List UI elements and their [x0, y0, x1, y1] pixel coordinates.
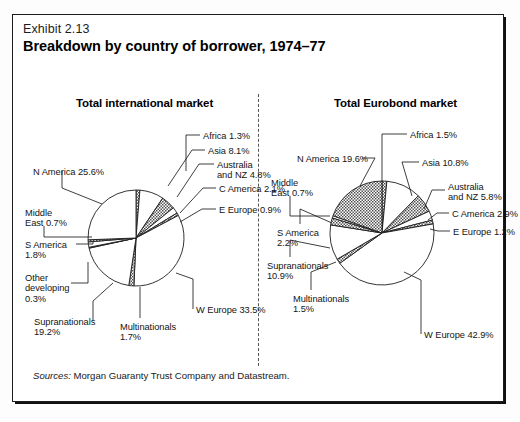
callout-euro-w-europe: W Europe 42.9%	[424, 330, 494, 340]
callout-euro-australia: Australia and NZ 5.8%	[448, 182, 502, 203]
callout-euro-asia: Asia 10.8%	[422, 158, 469, 168]
callout-euro-multinationals: Multinationals 1.5%	[293, 294, 349, 315]
callout-intl-australia: Australia and NZ 4.8%	[217, 160, 271, 181]
leader-line-africa	[382, 134, 407, 182]
callout-euro-c-america: C America 2.9%	[452, 209, 518, 219]
callout-intl-supranationals: Supranationals 19.2%	[34, 317, 95, 338]
callout-intl-w-europe: W Europe 33.5%	[196, 305, 266, 315]
callout-intl-n-america: N America 25.6%	[33, 167, 104, 177]
source-text: Morgan Guaranty Trust Company and Datast…	[71, 370, 290, 381]
callout-intl-e-europe: E Europe 0.9%	[219, 205, 281, 215]
callout-euro-middle-east: Middle East 0.7%	[271, 178, 313, 199]
callout-euro-n-america: N America 19.6%	[297, 154, 368, 164]
callout-intl-middle-east: Middle East 0.7%	[25, 208, 67, 229]
callout-intl-africa: Africa 1.3%	[203, 131, 250, 141]
leader-line-w-europe	[404, 272, 421, 334]
exhibit-page: Exhibit 2.13 Breakdown by country of bor…	[0, 0, 520, 422]
source-lead: Sources:	[33, 370, 71, 381]
callout-intl-asia: Asia 8.1%	[208, 146, 249, 156]
pie-wedges-eurobond	[330, 181, 434, 285]
callout-intl-other-dev: Other developing 0.3%	[25, 273, 69, 304]
callout-euro-s-america: S America 2.2%	[277, 228, 319, 249]
callout-euro-e-europe: E Europe 1.2%	[453, 227, 515, 237]
callout-intl-multinationals: Multinationals 1.7%	[120, 322, 176, 343]
callout-euro-supranationals: Supranationals 10.9%	[267, 261, 328, 282]
callout-intl-s-america: S America 1.8%	[25, 240, 67, 261]
callout-euro-africa: Africa 1.5%	[410, 130, 457, 140]
source-note: Sources: Morgan Guaranty Trust Company a…	[33, 370, 290, 381]
leader-line-s-america	[300, 209, 332, 224]
leader-line-australia	[424, 190, 445, 209]
